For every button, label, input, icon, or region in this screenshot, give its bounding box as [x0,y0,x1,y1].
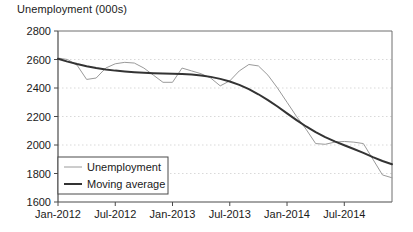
legend-label-unemployment: Unemployment [87,161,161,173]
x-axis-tick-labels: Jan-2012Jul-2012Jan-2013Jul-2013Jan-2014… [35,208,365,220]
x-tick-label: Jan-2014 [264,208,310,220]
y-tick-label: 1600 [27,196,51,208]
series-line-moving-average [58,59,392,164]
x-tick-label: Jan-2012 [35,208,81,220]
chart-canvas: 1600180020002200240026002800 Jan-2012Jul… [0,0,413,232]
grid-lines [58,60,392,174]
x-tick-label: Jul-2014 [323,208,365,220]
y-tick-label: 2600 [27,54,51,66]
y-axis-tick-labels: 1600180020002200240026002800 [27,25,51,208]
x-tick-label: Jul-2012 [94,208,136,220]
y-tick-label: 2400 [27,82,51,94]
y-tick-label: 2800 [27,25,51,37]
y-tick-label: 1800 [27,168,51,180]
unemployment-line-chart: Unemployment (000s) 16001800200022002400… [0,0,413,232]
y-tick-label: 2000 [27,139,51,151]
y-tick-label: 2200 [27,111,51,123]
chart-legend: Unemployment Moving average [58,157,168,194]
legend-label-moving-average: Moving average [87,178,165,190]
x-axis-ticks [58,202,344,206]
x-tick-label: Jan-2013 [150,208,196,220]
x-tick-label: Jul-2013 [209,208,251,220]
